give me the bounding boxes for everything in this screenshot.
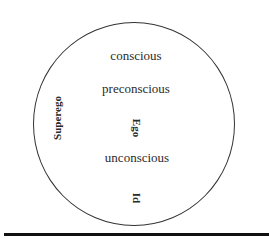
horizontal-rule xyxy=(4,233,269,236)
label-conscious: conscious xyxy=(110,48,161,64)
label-unconscious: unconscious xyxy=(105,150,169,166)
label-ego: Ego xyxy=(131,119,143,137)
label-preconscious: preconscious xyxy=(102,81,170,97)
label-id: Id xyxy=(131,193,143,203)
label-superego: Superego xyxy=(51,96,63,140)
